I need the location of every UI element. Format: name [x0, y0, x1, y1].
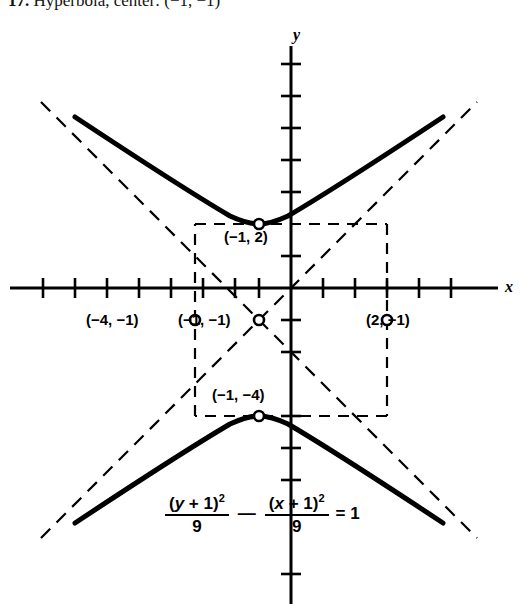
x-axis-label: x — [505, 278, 513, 296]
first-numerator: (y + 1)2 — [165, 492, 229, 514]
first-exponent: 2 — [219, 492, 225, 504]
label-upper-vertex: (−1, 2) — [224, 228, 268, 245]
second-exponent: 2 — [318, 492, 324, 504]
hyperbola-figure: 17. Hyperbola, center: (−1, −1) — [0, 0, 530, 610]
label-left-covertex: (−4, −1) — [86, 311, 139, 328]
marker-center — [254, 315, 264, 325]
variable-x: x — [274, 494, 283, 513]
first-fraction: (y + 1)2 9 — [165, 492, 229, 536]
label-right-covertex: (2, −1) — [366, 311, 410, 328]
label-center: (−1, −1) — [178, 311, 231, 328]
hyperbola-equation: (y + 1)2 9 — (x + 1)2 9 = 1 — [165, 492, 360, 536]
hyperbola-upper-branch — [75, 117, 443, 224]
marker-lower-vertex — [254, 411, 264, 421]
second-numerator: (x + 1)2 — [265, 492, 329, 514]
second-fraction: (x + 1)2 9 — [265, 492, 329, 536]
second-denominator: 9 — [265, 514, 329, 536]
label-lower-vertex: (−1, −4) — [212, 386, 265, 403]
minus-operator: — — [236, 503, 258, 524]
second-numerator-rest: + 1) — [284, 494, 319, 513]
first-denominator: 9 — [165, 514, 229, 536]
y-axis-label: y — [293, 26, 300, 44]
first-numerator-rest: + 1) — [184, 494, 219, 513]
equation-equals-one: = 1 — [336, 504, 360, 524]
variable-y: y — [175, 494, 184, 513]
